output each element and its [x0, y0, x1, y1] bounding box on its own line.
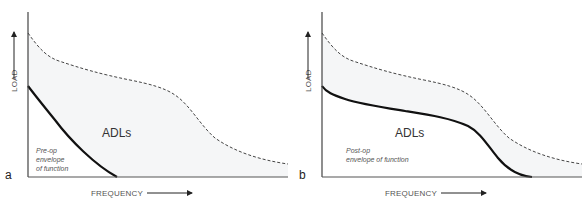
figure: LOAD FREQUENCY a ADLs Pre-op envelope of… [0, 0, 588, 204]
panel-b: LOAD FREQUENCY b ADLs Post-op envelope o… [299, 12, 582, 198]
envelope-label-a-line3: of function [36, 165, 68, 172]
envelope-label-a-line1: Pre-op [36, 147, 57, 155]
x-axis-label-b: FREQUENCY [385, 189, 437, 198]
panel-letter-b: b [299, 168, 306, 182]
envelope-label-a-line2: envelope [36, 156, 65, 164]
adl-region-label-a: ADLs [102, 126, 131, 140]
envelope-label-b-line1: Post-op [346, 147, 370, 155]
panel-a: LOAD FREQUENCY a ADLs Pre-op envelope of… [5, 12, 288, 198]
envelope-label-b-line2: envelope of function [346, 156, 409, 164]
x-axis-label-a: FREQUENCY [91, 189, 143, 198]
panel-letter-a: a [5, 168, 12, 182]
adl-region-label-b: ADLs [395, 126, 424, 140]
